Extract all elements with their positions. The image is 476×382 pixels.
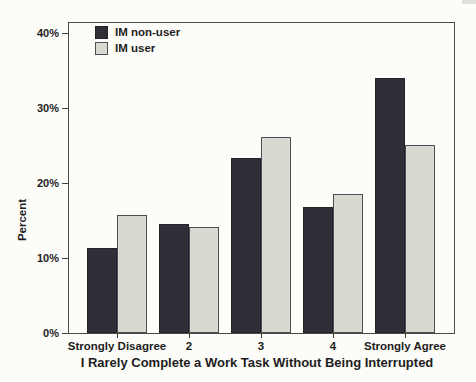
y-axis-title: Percent xyxy=(16,199,28,241)
bar-chart-figure: Percent IM non-userIM user I Rarely Comp… xyxy=(0,0,476,382)
bar-im-user xyxy=(333,194,363,333)
x-tick-mark xyxy=(333,333,334,338)
y-tick-mark xyxy=(62,258,68,259)
x-tick-label: 2 xyxy=(186,340,192,352)
y-tick-label: 40% xyxy=(18,27,59,39)
y-tick-label: 30% xyxy=(18,102,59,114)
y-tick-mark xyxy=(62,33,68,34)
x-axis-title: I Rarely Complete a Work Task Without Be… xyxy=(81,355,434,370)
legend-item: IM non-user xyxy=(95,26,180,39)
legend: IM non-userIM user xyxy=(95,26,180,55)
bar-im-non-user xyxy=(375,78,405,333)
y-tick-mark xyxy=(62,108,68,109)
bar-im-non-user xyxy=(87,248,117,333)
scan-artifact xyxy=(462,0,476,4)
legend-swatch-icon xyxy=(95,42,108,55)
y-tick-mark xyxy=(62,333,68,334)
legend-swatch-icon xyxy=(95,26,108,39)
y-tick-label: 10% xyxy=(18,252,59,264)
x-tick-label: 3 xyxy=(258,340,264,352)
bar-im-non-user xyxy=(303,207,333,333)
bar-im-non-user xyxy=(159,224,189,333)
x-tick-mark xyxy=(261,333,262,338)
x-tick-mark xyxy=(405,333,406,338)
legend-label: IM user xyxy=(115,42,155,55)
x-tick-mark xyxy=(117,333,118,338)
x-tick-label: 4 xyxy=(330,340,336,352)
legend-label: IM non-user xyxy=(115,26,180,39)
x-tick-label: Strongly Agree xyxy=(364,340,446,352)
legend-item: IM user xyxy=(95,42,180,55)
y-tick-label: 0% xyxy=(18,327,59,339)
bar-im-user xyxy=(261,137,291,333)
bar-im-user xyxy=(405,145,435,333)
bar-im-user xyxy=(117,215,147,333)
y-tick-label: 20% xyxy=(18,177,59,189)
y-tick-mark xyxy=(62,183,68,184)
x-tick-mark xyxy=(189,333,190,338)
bar-im-user xyxy=(189,227,219,333)
bar-im-non-user xyxy=(231,158,261,333)
x-tick-label: Strongly Disagree xyxy=(68,340,166,352)
